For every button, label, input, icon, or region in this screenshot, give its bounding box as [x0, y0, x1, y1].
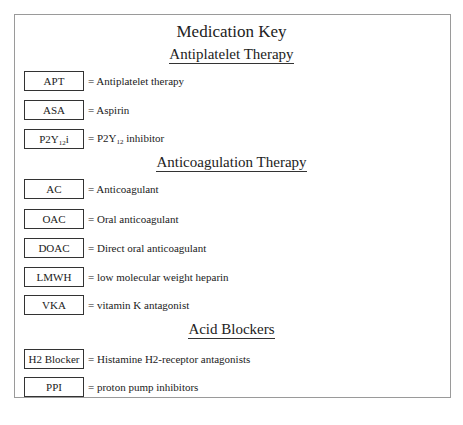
- definition: = low molecular weight heparin: [88, 271, 229, 283]
- key-row-ac: AC = Anticoagulant: [24, 179, 159, 199]
- def-tail: inhibitor: [124, 132, 165, 144]
- definition: = proton pump inhibitors: [88, 381, 198, 393]
- section-heading-text: Anticoagulation Therapy: [156, 154, 306, 172]
- abbr-subscript: 12: [59, 139, 66, 147]
- abbreviation-box: PPI: [24, 377, 84, 397]
- definition: = vitamin K antagonist: [88, 299, 189, 311]
- section-heading-anticoagulation: Anticoagulation Therapy: [0, 154, 463, 171]
- key-row-vka: VKA = vitamin K antagonist: [24, 295, 189, 315]
- abbreviation-box: ASA: [24, 100, 84, 120]
- abbreviation-box: VKA: [24, 295, 84, 315]
- def-subscript: 12: [117, 138, 124, 146]
- key-row-oac: OAC = Oral anticoagulant: [24, 209, 179, 229]
- abbreviation-box: AC: [24, 179, 84, 199]
- def-main: = P2Y: [88, 132, 117, 144]
- page-title: Medication Key: [0, 22, 463, 42]
- key-row-lmwh: LMWH = low molecular weight heparin: [24, 267, 229, 287]
- definition: = Anticoagulant: [88, 183, 159, 195]
- definition: = Direct oral anticoagulant: [88, 242, 206, 254]
- section-heading-text: Antiplatelet Therapy: [169, 46, 293, 64]
- abbreviation-box: DOAC: [24, 238, 84, 258]
- abbr-main: P2Y: [39, 133, 59, 145]
- definition: = Histamine H2-receptor antagonists: [88, 353, 250, 365]
- key-row-asa: ASA = Aspirin: [24, 100, 129, 120]
- abbreviation-box: APT: [24, 71, 84, 91]
- section-heading-text: Acid Blockers: [188, 321, 274, 339]
- abbreviation-box: LMWH: [24, 267, 84, 287]
- abbr-tail: i: [66, 133, 69, 145]
- key-row-doac: DOAC = Direct oral anticoagulant: [24, 238, 206, 258]
- abbreviation-box: H2 Blocker: [24, 349, 84, 369]
- section-heading-antiplatelet: Antiplatelet Therapy: [0, 46, 463, 63]
- abbreviation-box: OAC: [24, 209, 84, 229]
- abbreviation-box: P2Y12i: [24, 129, 84, 149]
- section-heading-acid-blockers: Acid Blockers: [0, 321, 463, 338]
- key-row-ppi: PPI = proton pump inhibitors: [24, 377, 198, 397]
- key-row-p2y12i: P2Y12i = P2Y12 inhibitor: [24, 129, 164, 149]
- key-row-h2-blocker: H2 Blocker = Histamine H2-receptor antag…: [24, 349, 250, 369]
- key-row-apt: APT = Antiplatelet therapy: [24, 71, 184, 91]
- definition: = Aspirin: [88, 104, 129, 116]
- definition: = Oral anticoagulant: [88, 213, 179, 225]
- definition: = P2Y12 inhibitor: [88, 132, 164, 146]
- definition: = Antiplatelet therapy: [88, 75, 184, 87]
